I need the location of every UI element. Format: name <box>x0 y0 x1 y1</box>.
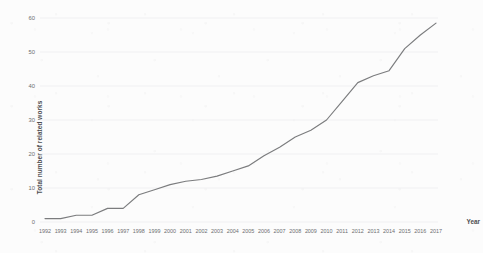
x-tick-label: 1996 <box>102 228 114 234</box>
y-axis-label: Total number of related works <box>36 73 43 223</box>
x-tick-label: 1993 <box>55 228 67 234</box>
x-tick-label: 2003 <box>211 228 223 234</box>
x-tick-label: 1994 <box>70 228 82 234</box>
x-tick-label: 2009 <box>305 228 317 234</box>
x-tick-label: 2008 <box>289 228 301 234</box>
x-tick-label: 2014 <box>383 228 395 234</box>
x-tick-label: 2017 <box>430 228 442 234</box>
x-tick-label: 2016 <box>414 228 426 234</box>
x-tick-label: 2015 <box>399 228 411 234</box>
y-tick-label: 20 <box>19 151 35 157</box>
x-tick-label: 1997 <box>117 228 129 234</box>
x-tick-label: 1999 <box>148 228 160 234</box>
x-tick-label: 2000 <box>164 228 176 234</box>
x-tick-label: 2010 <box>321 228 333 234</box>
x-tick-label: 2013 <box>367 228 379 234</box>
x-tick-label: 2012 <box>352 228 364 234</box>
x-tick-label: 1995 <box>86 228 98 234</box>
y-tick-label: 30 <box>19 117 35 123</box>
x-tick-label: 1992 <box>39 228 51 234</box>
x-tick-label: 2004 <box>227 228 239 234</box>
gridlines <box>40 18 438 222</box>
x-tick-label: 2001 <box>180 228 192 234</box>
plot-area <box>0 0 483 253</box>
x-tick-label: 2005 <box>242 228 254 234</box>
y-tick-label: 50 <box>19 49 35 55</box>
x-tick-label: 2002 <box>195 228 207 234</box>
x-tick-label: 2007 <box>274 228 286 234</box>
x-tick-label: 2011 <box>336 228 348 234</box>
x-axis-label: Year <box>466 218 480 225</box>
y-tick-label: 0 <box>19 219 35 225</box>
y-tick-label: 40 <box>19 83 35 89</box>
y-tick-label: 60 <box>19 15 35 21</box>
x-tick-label: 1998 <box>133 228 145 234</box>
line-chart: Total number of related works Year 01020… <box>0 0 483 253</box>
x-tick-label: 2006 <box>258 228 270 234</box>
y-tick-label: 10 <box>19 185 35 191</box>
